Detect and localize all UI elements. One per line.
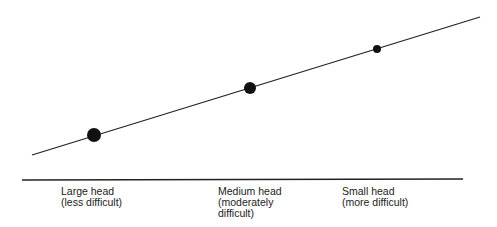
baseline (22, 179, 463, 180)
small-head-dot (373, 45, 381, 53)
label-medium-head: Medium head (moderately difficult) (218, 186, 282, 219)
label-small-head: Small head (more difficult) (342, 186, 408, 208)
large-head-dot (87, 128, 101, 142)
medium-head-dot (244, 82, 256, 94)
label-large-head: Large head (less difficult) (61, 186, 122, 208)
